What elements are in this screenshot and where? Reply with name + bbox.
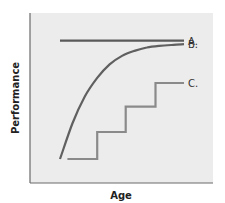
plot-background bbox=[30, 13, 213, 183]
series-b-label: B. bbox=[188, 39, 198, 50]
x-axis-label: Age bbox=[110, 190, 132, 201]
y-axis-label: Performance bbox=[10, 62, 21, 134]
chart: A.B.C. Performance Age bbox=[0, 0, 225, 203]
series-c-label: C. bbox=[188, 78, 198, 89]
